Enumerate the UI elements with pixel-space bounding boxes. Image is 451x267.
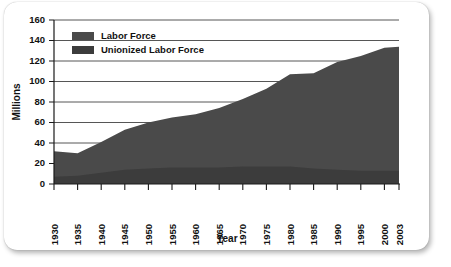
x-tick-label-1940: 1940 — [96, 224, 107, 245]
labor-force-area-chart: 160 140 120 100 80 60 40 20 0 Millions — [4, 2, 429, 250]
y-tick-marks — [49, 20, 54, 184]
x-tick-label-1960: 1960 — [190, 224, 201, 245]
series-area-labor-force — [54, 47, 399, 184]
legend-swatch-unionized-labor-force — [72, 46, 94, 54]
y-tick-label-40: 40 — [34, 137, 45, 148]
y-axis-title: Millions — [11, 83, 22, 121]
legend-label-unionized-labor-force: Unionized Labor Force — [101, 44, 204, 55]
x-tick-label-1955: 1955 — [167, 223, 178, 245]
x-tick-label-1975: 1975 — [261, 223, 272, 245]
chart-card: 160 140 120 100 80 60 40 20 0 Millions — [4, 2, 429, 250]
x-tick-label-1950: 1950 — [143, 224, 154, 245]
y-tick-label-80: 80 — [34, 96, 45, 107]
legend-swatch-labor-force — [72, 32, 94, 40]
x-axis-title: Year — [216, 233, 237, 244]
y-tick-label-140: 140 — [29, 34, 45, 45]
x-tick-label-1935: 1935 — [72, 223, 83, 245]
x-tick-label-1985: 1985 — [308, 223, 319, 245]
y-tick-label-60: 60 — [34, 116, 45, 127]
x-tick-label-2000: 2000 — [379, 224, 390, 245]
y-tick-label-120: 120 — [29, 55, 45, 66]
x-tick-label-1980: 1980 — [285, 224, 296, 245]
y-tick-label-0: 0 — [40, 178, 45, 189]
x-tick-label-1970: 1970 — [237, 224, 248, 245]
y-tick-label-100: 100 — [29, 75, 45, 86]
x-tick-label-2003: 2003 — [394, 224, 405, 245]
y-tick-label-160: 160 — [29, 14, 45, 25]
legend-label-labor-force: Labor Force — [101, 30, 156, 41]
chart-svg: 160 140 120 100 80 60 40 20 0 Millions — [4, 2, 429, 250]
y-tick-label-20: 20 — [34, 157, 45, 168]
x-tick-label-1945: 1945 — [119, 223, 130, 245]
chart-legend: Labor Force Unionized Labor Force — [72, 30, 204, 55]
x-tick-label-1995: 1995 — [355, 223, 366, 245]
x-tick-marks — [54, 184, 399, 190]
x-tick-label-1930: 1930 — [49, 224, 60, 245]
x-tick-label-1990: 1990 — [332, 224, 343, 245]
